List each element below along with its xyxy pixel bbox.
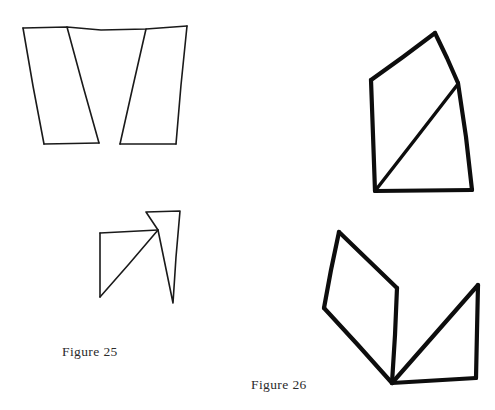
lower-triangle-right-edge [476, 285, 478, 378]
figure-26-caption: Figure 26 [251, 377, 307, 393]
left-trapezoid-bottom-edge [44, 143, 99, 144]
figure-page: Figure 25 Figure 26 [0, 0, 495, 410]
figure-25-caption: Figure 25 [62, 344, 118, 360]
pentagon-bottom-edge [375, 190, 472, 191]
